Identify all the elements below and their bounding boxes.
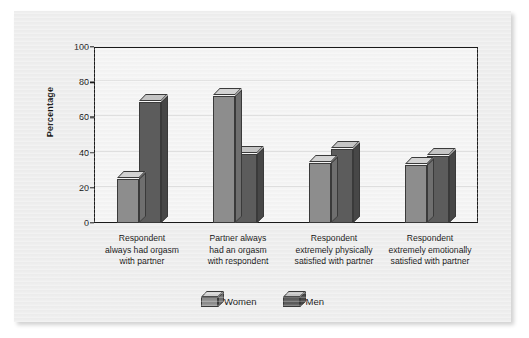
legend-item-men[interactable]: Men [283,295,324,307]
y-axis-tick-label: 0 [84,218,89,228]
figure-card: Percentage 020406080100 Respondentalways… [14,11,511,322]
legend-swatch-women [201,297,218,307]
bar-front-face [117,179,139,223]
chart-legend: WomenMen [14,295,511,307]
x-axis-label: Respondentextremely emotionallysatisfied… [374,233,486,268]
bar-women [309,163,331,223]
legend-swatch-face [201,297,218,307]
bar-side-face [427,158,434,223]
bars-layer [94,47,478,223]
bar-side-face [353,142,360,223]
bar-front-face [405,165,427,223]
legend-label-women: Women [224,296,257,307]
legend-item-women[interactable]: Women [201,295,257,307]
screenshot-root: Percentage 020406080100 Respondentalways… [0,0,529,338]
y-axis-tick-label: 80 [79,77,89,87]
bar-women [405,165,427,223]
y-axis-title: Percentage [45,62,55,162]
y-axis-tick-label: 20 [79,183,89,193]
x-axis-category-labels: Respondentalways had orgasmwith partnerP… [94,233,478,285]
bar-side-face [161,95,168,223]
bar-group [286,47,382,223]
bar-side-face [235,90,242,223]
y-axis-tick-label: 100 [74,42,89,52]
legend-swatch-men [283,297,300,307]
y-axis-tick-label: 60 [79,112,89,122]
bar-side-face [449,149,456,223]
y-axis-tick-label: 40 [79,148,89,158]
bar-group [94,47,190,223]
bar-front-face [309,163,331,223]
bar-women [117,179,139,223]
x-axis-label-line: satisfied with partner [374,256,486,268]
bar-women [213,96,235,223]
x-axis-label-line: Respondent [374,233,486,245]
bar-group [190,47,286,223]
legend-swatch-face [283,297,300,307]
legend-label-men: Men [306,296,324,307]
bar-side-face [257,148,264,223]
bar-group [382,47,478,223]
bar-front-face [213,96,235,223]
bar-side-face [139,172,146,223]
bar-side-face [331,156,338,223]
x-axis-label-line: extremely emotionally [374,245,486,257]
